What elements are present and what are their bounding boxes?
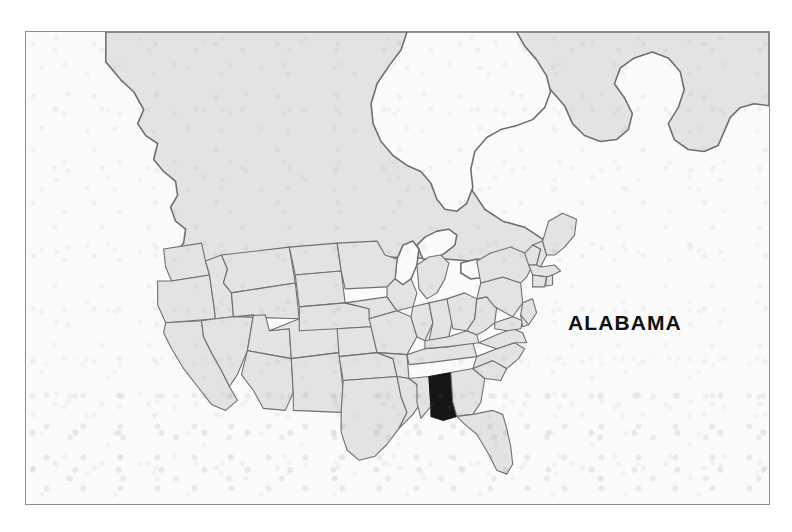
state-north-dakota (289, 243, 341, 275)
state-maine (543, 213, 577, 255)
margin-text-fragments: A S T I A L W S (0, 150, 10, 520)
state-name-label: ALABAMA (568, 311, 682, 335)
state-rhode-island (546, 275, 553, 286)
state-south-dakota (295, 271, 345, 307)
map-page: A S T I A L W S (0, 0, 792, 532)
state-washington (164, 243, 210, 281)
state-connecticut (533, 275, 547, 287)
state-oregon (158, 275, 216, 323)
map-plate: ALABAMA (25, 31, 770, 505)
state-texas (341, 377, 407, 461)
united-states-locator-map (26, 32, 769, 504)
state-kansas (337, 327, 377, 357)
state-maryland (495, 317, 523, 331)
state-florida (457, 410, 513, 474)
state-arizona (241, 351, 293, 411)
state-new-mexico (291, 353, 343, 413)
state-missouri (369, 311, 417, 355)
state-georgia (451, 369, 485, 417)
state-michigan (417, 255, 449, 299)
